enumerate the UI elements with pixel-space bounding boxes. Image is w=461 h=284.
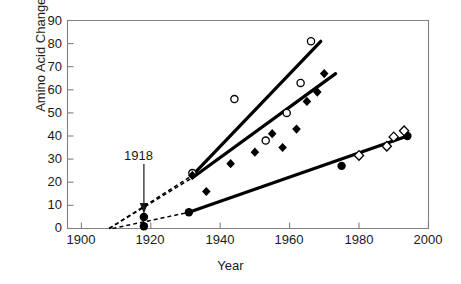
open-circle-markers	[140, 38, 314, 221]
data-point-filled-diamond	[268, 129, 277, 138]
data-point-filled-diamond	[320, 69, 329, 78]
open-diamond-markers	[354, 126, 408, 160]
filled-diamond-markers	[140, 69, 329, 222]
data-point-open-circle	[283, 109, 290, 116]
data-point-filled-circle	[140, 222, 148, 230]
data-point-filled-diamond	[202, 187, 211, 196]
y-axis-ticks	[68, 21, 74, 229]
data-point-open-circle	[231, 96, 238, 103]
fit-line-filled-circle	[189, 136, 408, 212]
fit-line-open-circle	[192, 41, 320, 175]
data-point-filled-diamond	[226, 159, 235, 168]
dashed-fit-lines	[109, 175, 192, 228]
data-point-open-circle	[297, 79, 304, 86]
data-point-filled-circle	[337, 162, 345, 170]
data-point-open-circle	[307, 38, 314, 45]
axis-frame	[68, 21, 429, 229]
chart-figure: Amino Acid Changes Year 90 80 70 60 50 4…	[0, 0, 461, 284]
data-point-filled-diamond	[140, 212, 149, 221]
data-point-filled-diamond	[251, 148, 260, 157]
fit-line-diamond	[192, 74, 335, 178]
plot-canvas	[0, 0, 461, 284]
data-point-filled-diamond	[278, 143, 287, 152]
data-point-filled-circle	[185, 208, 193, 216]
data-point-open-circle	[262, 137, 269, 144]
data-point-filled-diamond	[292, 125, 301, 134]
